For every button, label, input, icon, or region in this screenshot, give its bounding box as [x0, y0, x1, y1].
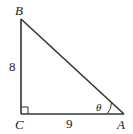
vertex-label-c: C — [15, 117, 24, 132]
vertex-label-a: A — [116, 117, 125, 132]
triangle-diagram: B C A 8 9 θ — [0, 0, 133, 134]
right-angle-marker — [21, 107, 28, 114]
vertex-label-b: B — [15, 3, 23, 18]
angle-label-theta: θ — [96, 101, 102, 113]
side-ab-hypotenuse — [21, 19, 124, 114]
side-label-bc: 8 — [9, 59, 16, 74]
side-label-ca: 9 — [66, 116, 73, 131]
angle-arc-theta — [107, 103, 112, 115]
